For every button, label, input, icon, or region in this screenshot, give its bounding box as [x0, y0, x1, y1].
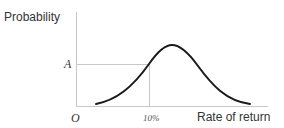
- bell-curve: [96, 45, 250, 104]
- y-axis-label: Probability: [4, 10, 60, 24]
- origin-label: O: [71, 111, 80, 125]
- probability-chart: Probability A O 10% Rate of return: [0, 0, 284, 128]
- tick-label-10pct: 10%: [143, 113, 160, 123]
- x-axis-label: Rate of return: [197, 110, 270, 124]
- tick-label-a: A: [63, 57, 72, 71]
